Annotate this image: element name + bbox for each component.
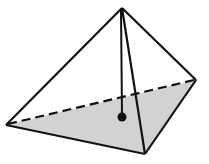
- base-face: [6, 80, 196, 154]
- altitude-line: [121, 10, 122, 115]
- base-center-dot: [118, 113, 127, 122]
- lateral-edge-right: [122, 8, 196, 80]
- pyramid-diagram: [0, 0, 209, 164]
